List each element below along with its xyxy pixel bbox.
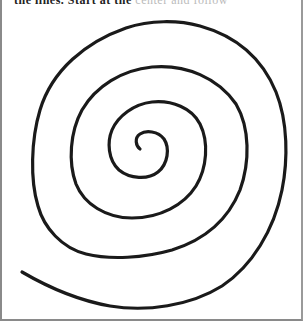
spiral-drawing [0, 0, 303, 321]
spiral-path [22, 22, 286, 308]
